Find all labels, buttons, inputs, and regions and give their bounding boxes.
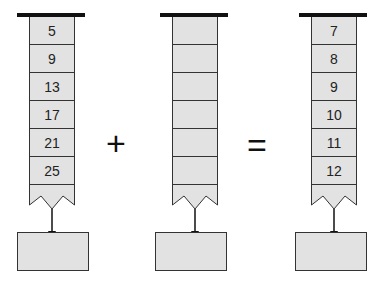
column-cells xyxy=(172,17,218,185)
plus-sign: + xyxy=(106,126,126,160)
cell xyxy=(172,73,218,101)
cell: 21 xyxy=(29,129,75,157)
cell: 9 xyxy=(29,45,75,73)
cell: 8 xyxy=(311,45,357,73)
cell: 13 xyxy=(29,73,75,101)
cell: 7 xyxy=(311,17,357,45)
output-box-right xyxy=(295,232,367,271)
cell: 9 xyxy=(311,73,357,101)
column-cells: 5 9 13 17 21 25 xyxy=(29,17,75,185)
cell: 5 xyxy=(29,17,75,45)
cell xyxy=(172,157,218,185)
cell: 25 xyxy=(29,157,75,185)
cell xyxy=(172,45,218,73)
column-cells: 7 8 9 10 11 12 xyxy=(311,17,357,185)
output-box-left xyxy=(17,232,89,271)
output-box-middle xyxy=(155,232,227,271)
cell xyxy=(172,17,218,45)
cell xyxy=(172,129,218,157)
equals-sign: = xyxy=(247,128,267,162)
cell: 10 xyxy=(311,101,357,129)
cell: 11 xyxy=(311,129,357,157)
cell xyxy=(172,101,218,129)
cell: 12 xyxy=(311,157,357,185)
cell: 17 xyxy=(29,101,75,129)
